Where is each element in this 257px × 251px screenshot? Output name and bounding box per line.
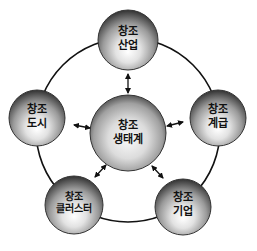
city-line2: 도시	[27, 117, 47, 131]
center-node-label: 창조 생태계	[90, 110, 166, 156]
arrow-center-enterprise	[152, 166, 163, 178]
enterprise-line1: 창조	[173, 191, 193, 205]
arrow-center-cluster	[95, 165, 106, 177]
node-enterprise-label: 창조 기업	[155, 188, 211, 222]
class-line1: 창조	[208, 103, 228, 117]
enterprise-line2: 기업	[173, 205, 193, 219]
class-line2: 계급	[208, 117, 228, 131]
node-city-label: 창조 도시	[9, 100, 65, 134]
cluster-line2: 클러스터	[56, 203, 92, 216]
industry-line1: 창조	[118, 25, 138, 39]
industry-line2: 산업	[118, 39, 138, 53]
center-line1: 창조	[118, 119, 138, 133]
cluster-line1: 창조	[65, 191, 83, 204]
node-cluster-label: 창조 클러스터	[44, 186, 104, 220]
node-industry-label: 창조 산업	[98, 22, 158, 56]
node-class-label: 창조 계급	[190, 100, 246, 134]
arrow-center-city	[74, 125, 90, 128]
arrow-center-class	[167, 122, 183, 126]
city-line1: 창조	[27, 103, 47, 117]
center-line2: 생태계	[113, 133, 143, 147]
